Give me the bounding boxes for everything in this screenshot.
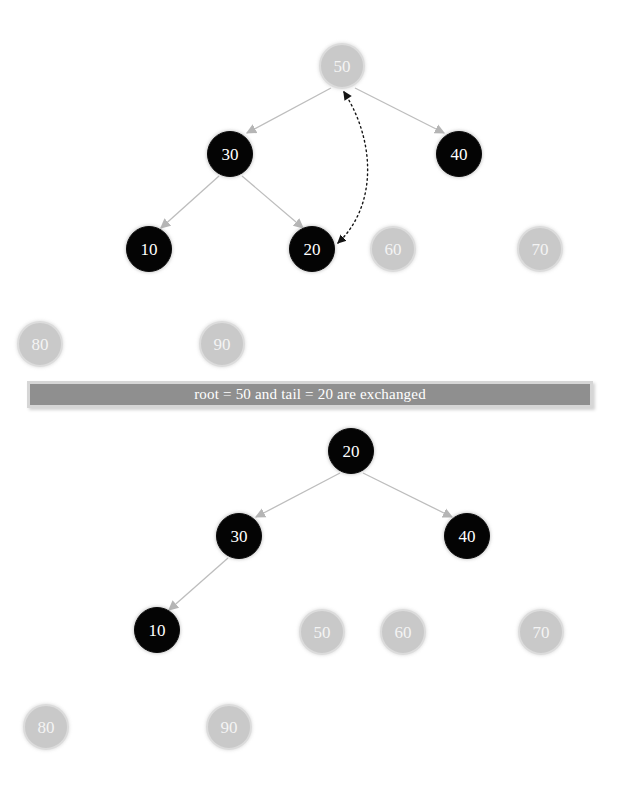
heap-node-60-after[interactable]: 60 — [380, 609, 426, 655]
heap-node-label: 60 — [385, 241, 402, 258]
swap-arrow-50-20 — [338, 92, 368, 243]
heap-node-label: 40 — [459, 528, 476, 545]
heap-node-90-after[interactable]: 90 — [206, 704, 252, 750]
heap-node-label: 30 — [222, 146, 239, 163]
diagram-canvas: 503040102060708090 203040105060708090 ro… — [0, 0, 620, 793]
heap-node-20-before[interactable]: 20 — [289, 226, 335, 272]
status-banner: root = 50 and tail = 20 are exchanged — [27, 381, 593, 408]
edge-30-20 — [242, 176, 303, 228]
heap-node-30-after[interactable]: 30 — [216, 513, 262, 559]
heap-node-label: 50 — [334, 58, 351, 75]
heap-node-50-before[interactable]: 50 — [319, 43, 365, 89]
heap-node-label: 70 — [533, 624, 550, 641]
edge-30-10 — [161, 176, 219, 228]
heap-node-80-after[interactable]: 80 — [23, 704, 69, 750]
heap-node-label: 60 — [395, 624, 412, 641]
heap-node-70-before[interactable]: 70 — [517, 226, 563, 272]
edge-30-10-after — [169, 558, 228, 610]
edge-50-30 — [247, 88, 331, 133]
heap-node-label: 70 — [532, 241, 549, 258]
heap-node-label: 50 — [314, 624, 331, 641]
heap-node-10-before[interactable]: 10 — [126, 226, 172, 272]
heap-node-60-before[interactable]: 60 — [370, 226, 416, 272]
edge-50-40 — [355, 88, 444, 133]
heap-node-label: 80 — [32, 336, 49, 353]
heap-node-40-before[interactable]: 40 — [436, 131, 482, 177]
heap-node-50-after[interactable]: 50 — [299, 609, 345, 655]
heap-node-label: 10 — [141, 241, 158, 258]
heap-node-80-before[interactable]: 80 — [17, 321, 63, 367]
heap-node-10-after[interactable]: 10 — [134, 607, 180, 653]
heap-node-label: 20 — [343, 443, 360, 460]
status-banner-text: root = 50 and tail = 20 are exchanged — [194, 386, 426, 403]
heap-node-label: 90 — [214, 336, 231, 353]
heap-node-label: 10 — [149, 622, 166, 639]
edges-before — [161, 88, 444, 228]
heap-node-label: 40 — [451, 146, 468, 163]
heap-node-90-before[interactable]: 90 — [199, 321, 245, 367]
heap-node-label: 30 — [231, 528, 248, 545]
heap-node-20-after[interactable]: 20 — [328, 428, 374, 474]
heap-node-label: 20 — [304, 241, 321, 258]
heap-node-70-after[interactable]: 70 — [518, 609, 564, 655]
heap-node-label: 80 — [38, 719, 55, 736]
edge-20-40-after — [363, 473, 452, 517]
heap-node-label: 90 — [221, 719, 238, 736]
edges-after — [169, 473, 452, 610]
edge-20-30-after — [256, 473, 340, 517]
heap-node-40-after[interactable]: 40 — [444, 513, 490, 559]
heap-node-30-before[interactable]: 30 — [207, 131, 253, 177]
